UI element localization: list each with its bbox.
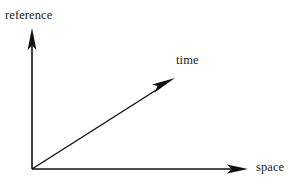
reference-axis-label: reference: [5, 9, 52, 22]
time-axis-shaft: [32, 87, 161, 169]
time-axis-label: time: [176, 54, 199, 67]
reference-axis-arrow: [28, 28, 37, 169]
time-axis-arrow: [32, 78, 175, 169]
spacetime-axes-figure: reference time space: [0, 0, 302, 191]
space-axis-arrow: [32, 164, 248, 173]
space-axis-label: space: [256, 161, 284, 174]
